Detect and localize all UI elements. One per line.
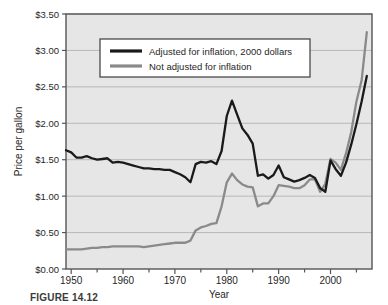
figure-container: $0.00$0.50$1.00$1.50$2.00$2.50$3.00$3.50… [0,0,388,305]
gasoline-price-line-chart: $0.00$0.50$1.00$1.50$2.00$2.50$3.00$3.50… [0,0,388,305]
x-axis-tick-label: 2000 [319,275,342,286]
y-axis-tick-label: $1.50 [35,154,59,165]
x-axis-tick-label: 1990 [268,275,291,286]
y-axis-tick-label: $2.50 [35,81,59,92]
x-axis-tick-label: 1970 [164,275,187,286]
x-axis-tick-label: 1960 [112,275,135,286]
y-axis-tick-label: $3.00 [35,45,59,56]
y-axis-tick-label: $1.00 [35,191,59,202]
x-axis-tick-label: 1950 [60,275,83,286]
y-axis-title: Price per gallon [13,107,24,176]
legend-label-adjusted: Adjusted for inflation, 2000 dollars [149,46,292,57]
y-axis-tick-label: $2.00 [35,118,59,129]
y-axis-tick-label: $3.50 [35,9,59,20]
figure-caption: FIGURE 14.12 [30,292,380,305]
legend-label-nominal: Not adjusted for inflation [149,61,251,72]
x-axis-tick-label: 1980 [216,275,239,286]
y-axis-tick-label: $0.00 [35,264,59,275]
y-axis-tick-label: $0.50 [35,227,59,238]
